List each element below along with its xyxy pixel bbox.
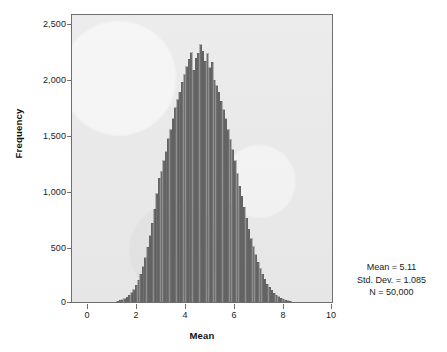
histogram-bar: [248, 229, 250, 302]
histogram-bar: [239, 186, 241, 302]
histogram-bar: [276, 295, 278, 302]
x-tick-mark-0: [87, 304, 88, 309]
histogram-bar: [220, 101, 222, 302]
histogram-bar: [184, 75, 186, 302]
histogram-bar: [138, 280, 140, 302]
histogram-bar: [128, 295, 130, 302]
histogram-bar: [241, 196, 243, 302]
y-tick-label-0: 0: [22, 297, 66, 307]
histogram-bar: [253, 247, 255, 302]
histogram-bar: [193, 70, 195, 302]
histogram-figure: Frequency 2,500 2,000 1,500 1,000 500 0 …: [0, 0, 447, 352]
histogram-bar: [273, 293, 275, 302]
histogram-bar: [260, 269, 262, 302]
histogram-bar: [266, 284, 268, 302]
histogram-bar: [158, 178, 160, 302]
histogram-bar: [124, 299, 126, 302]
histogram-bar: [131, 293, 133, 302]
histogram-bar: [269, 287, 271, 302]
histogram-bar: [170, 130, 172, 302]
x-axis-title: Mean: [71, 330, 333, 341]
x-tick-label-6: 6: [221, 310, 247, 320]
x-tick-mark-2: [136, 304, 137, 309]
x-tick-label-8: 8: [270, 310, 296, 320]
stat-mean: Mean = 5.11: [340, 261, 443, 274]
histogram-bar: [135, 285, 137, 302]
histogram-bar: [227, 130, 229, 302]
histogram-bar: [246, 218, 248, 302]
histogram-bar: [163, 161, 165, 302]
x-tick-label-10: 10: [318, 310, 344, 320]
histogram-bar: [232, 150, 234, 302]
histogram-bar: [255, 255, 257, 302]
histogram-bar: [142, 267, 144, 302]
histogram-bar: [204, 61, 206, 302]
histogram-bar: [133, 290, 135, 302]
histogram-bar: [197, 53, 199, 302]
histogram-bar: [214, 80, 216, 302]
histogram-bar: [165, 152, 167, 302]
y-tick-label-2500: 2,500: [22, 19, 66, 29]
histogram-bar: [237, 174, 239, 302]
histogram-bar: [200, 45, 202, 302]
histogram-bar: [216, 86, 218, 302]
y-tick-label-1000: 1,000: [22, 187, 66, 197]
x-tick-mark-4: [185, 304, 186, 309]
plot-area: [71, 14, 333, 303]
histogram-bar: [257, 262, 259, 302]
x-tick-mark-10: [331, 304, 332, 309]
histogram-bar: [149, 236, 151, 302]
histogram-bar: [202, 51, 204, 302]
histogram-bar: [225, 119, 227, 302]
histogram-bar: [234, 161, 236, 302]
histogram-bar: [174, 108, 176, 302]
y-tick-label-2000: 2,000: [22, 75, 66, 85]
histogram-bar: [181, 82, 183, 302]
histogram-bar: [126, 297, 128, 302]
histogram-bar: [179, 92, 181, 302]
stat-std-dev: Std. Dev. = 1.085: [340, 274, 443, 287]
histogram-bar: [283, 299, 285, 302]
stats-annotation: Mean = 5.11 Std. Dev. = 1.085 N = 50,000: [340, 261, 443, 299]
histogram-bar: [119, 300, 121, 302]
histogram-bar: [209, 68, 211, 302]
histogram-bar: [147, 247, 149, 302]
histogram-bar: [154, 209, 156, 302]
histogram-bar: [223, 110, 225, 302]
histogram-bars: [72, 15, 332, 302]
histogram-bar: [271, 290, 273, 302]
histogram-bar: [151, 223, 153, 302]
histogram-bar: [167, 139, 169, 302]
histogram-bar: [121, 300, 123, 302]
histogram-bar: [218, 92, 220, 302]
histogram-bar: [289, 301, 291, 302]
x-tick-mark-8: [283, 304, 284, 309]
histogram-bar: [280, 298, 282, 302]
histogram-bar: [172, 119, 174, 302]
histogram-bar: [243, 207, 245, 302]
histogram-bar: [211, 62, 213, 302]
x-tick-label-2: 2: [123, 310, 149, 320]
histogram-bar: [190, 53, 192, 302]
y-tick-label-1500: 1,500: [22, 131, 66, 141]
x-tick-label-4: 4: [172, 310, 198, 320]
histogram-bar: [230, 140, 232, 302]
histogram-bar: [144, 258, 146, 302]
x-tick-mark-6: [234, 304, 235, 309]
histogram-bar: [278, 297, 280, 302]
histogram-bar: [140, 274, 142, 302]
histogram-bar: [207, 54, 209, 302]
histogram-bar: [161, 172, 163, 302]
histogram-bar: [264, 279, 266, 302]
histogram-bar: [287, 301, 289, 302]
histogram-bar: [156, 194, 158, 302]
x-tick-label-0: 0: [74, 310, 100, 320]
y-tick-label-500: 500: [22, 243, 66, 253]
histogram-bar: [285, 300, 287, 302]
histogram-bar: [195, 58, 197, 302]
histogram-bar: [250, 239, 252, 302]
stat-n: N = 50,000: [340, 286, 443, 299]
histogram-bar: [188, 59, 190, 302]
histogram-bar: [177, 100, 179, 302]
histogram-bar: [186, 67, 188, 302]
